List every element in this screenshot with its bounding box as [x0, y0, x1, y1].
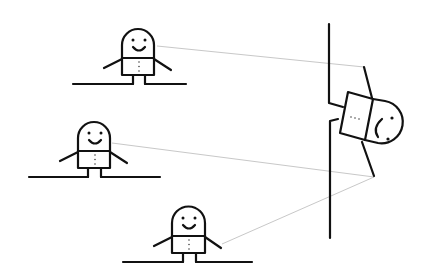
wall-upper: [329, 24, 343, 107]
button-dot: [188, 248, 190, 250]
arm-lower: [362, 142, 374, 176]
eye-icon: [390, 116, 393, 119]
eye-icon: [144, 39, 147, 42]
sight-line-middle: [112, 143, 374, 177]
eye-icon: [132, 39, 135, 42]
button-dot: [350, 116, 352, 118]
button-dot: [188, 239, 190, 241]
figure-top: [73, 29, 186, 84]
eye-icon: [182, 217, 185, 220]
button-dot: [94, 159, 96, 161]
eye-icon: [100, 132, 103, 135]
figure-bottom: [123, 207, 252, 263]
eye-icon: [386, 137, 389, 140]
figure-middle: [29, 122, 160, 177]
body: [340, 92, 373, 140]
arm-upper: [364, 67, 372, 98]
sight-line-top: [157, 46, 364, 67]
button-dot: [138, 66, 140, 68]
legs: [88, 168, 101, 177]
arms: [154, 237, 221, 248]
frown-mouth: [376, 119, 382, 137]
smile-mouth: [133, 47, 145, 51]
button-dot: [188, 244, 190, 246]
button-dot: [138, 70, 140, 72]
peeking-figure: [340, 67, 403, 176]
button-dot: [358, 118, 360, 120]
legs: [183, 253, 196, 262]
smile-mouth: [183, 225, 195, 229]
body: [122, 58, 154, 75]
sight-line-bottom: [222, 177, 374, 244]
head: [78, 122, 110, 151]
perspective-diagram: [0, 0, 431, 276]
body: [78, 151, 110, 168]
arms: [104, 59, 171, 70]
button-dot: [94, 163, 96, 165]
wall-lower: [330, 119, 338, 238]
button-dot: [354, 117, 356, 119]
eye-icon: [88, 132, 91, 135]
smile-mouth: [89, 140, 101, 144]
head: [172, 207, 205, 237]
arms: [60, 152, 127, 163]
eye-icon: [194, 217, 197, 220]
head: [122, 29, 154, 58]
legs: [133, 75, 145, 84]
button-dot: [138, 61, 140, 63]
button-dot: [94, 154, 96, 156]
